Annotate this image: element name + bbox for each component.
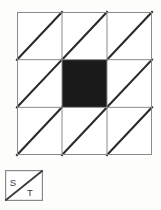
legend-svg: S T (5, 170, 43, 201)
legend-label-lower: T (27, 187, 33, 198)
cell-r1-c1 (62, 60, 107, 108)
pattern-grid-svg (17, 12, 152, 155)
legend: S T (5, 170, 43, 201)
pattern-grid (17, 12, 152, 155)
figure-root: S T (0, 0, 161, 210)
legend-label-upper: S (10, 177, 16, 188)
